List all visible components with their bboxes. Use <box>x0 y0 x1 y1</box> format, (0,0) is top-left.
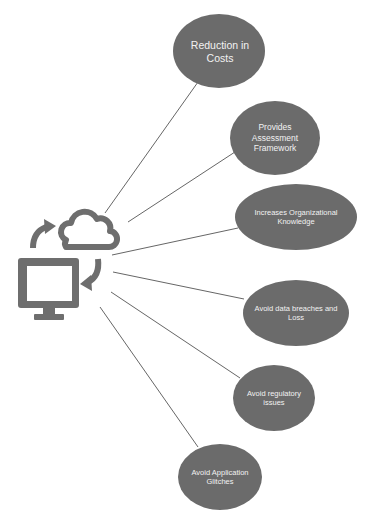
node-label-reduction-in-costs: Reduction in Costs <box>175 20 265 84</box>
computer-monitor-icon <box>18 258 79 320</box>
label-line: Knowledge <box>255 217 338 226</box>
sync-arrow-down-icon <box>80 259 98 291</box>
label-line: Framework <box>252 143 298 154</box>
label-line: Assessment <box>252 133 298 144</box>
label-line: Increases Organizational <box>255 208 338 217</box>
node-label-data-breaches: Avoid data breaches and Loss <box>245 289 347 337</box>
connector-data-breaches <box>113 272 244 299</box>
node-ellipses <box>173 14 357 510</box>
hub-icon-group <box>18 212 117 320</box>
cloud-icon <box>61 212 117 247</box>
label-line: Provides <box>252 122 298 133</box>
node-label-regulatory-issues: Avoid regulatory issues <box>235 374 313 422</box>
node-label-organizational-knowledge: Increases Organizational Knowledge <box>238 192 354 242</box>
connector-application-glitches <box>100 307 198 447</box>
connector-regulatory-issues <box>111 292 240 378</box>
connector-lines <box>100 82 244 447</box>
connector-assessment-framework <box>128 150 238 222</box>
node-label-application-glitches: Avoid Application Glitches <box>180 453 260 501</box>
label-line: Reduction in <box>191 39 249 52</box>
label-line: Avoid data breaches and <box>255 304 338 313</box>
sync-arrow-up-icon <box>33 219 56 248</box>
label-line: issues <box>247 398 301 407</box>
label-line: Avoid Application <box>192 468 249 477</box>
connector-reduction-in-costs <box>105 82 198 213</box>
label-line: Glitches <box>192 477 249 486</box>
connector-organizational-knowledge <box>112 228 238 255</box>
node-label-assessment-framework: Provides Assessment Framework <box>232 106 318 170</box>
label-line: Loss <box>255 313 338 322</box>
label-line: Avoid regulatory <box>247 389 301 398</box>
label-line: Costs <box>191 52 249 65</box>
